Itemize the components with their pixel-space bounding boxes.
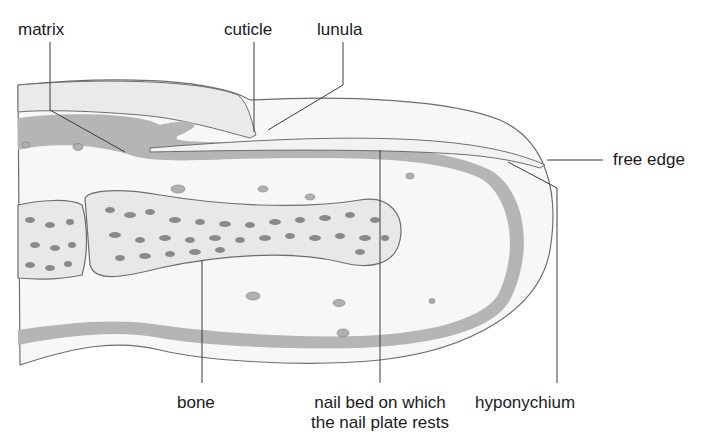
label-nail-bed-line2: the nail plate rests <box>282 413 478 433</box>
label-hyponychium: hyponychium <box>475 393 575 413</box>
label-nail-bed-line1: nail bed on which <box>282 393 478 413</box>
label-nail-bed: nail bed on which the nail plate rests <box>282 393 478 433</box>
label-cuticle: cuticle <box>224 20 272 40</box>
label-free-edge: free edge <box>613 150 685 170</box>
nail-anatomy-diagram <box>0 0 720 444</box>
label-lunula: lunula <box>317 20 362 40</box>
label-bone: bone <box>177 393 215 413</box>
label-matrix: matrix <box>18 20 64 40</box>
